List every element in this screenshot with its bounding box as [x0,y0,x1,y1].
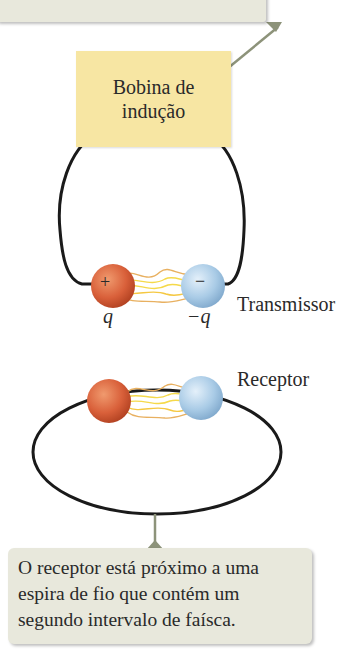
transmitter-label: Transmissor [237,293,335,316]
receiver-label: Receptor [237,368,309,391]
transmitter-circuit-wire [59,135,244,284]
receiver-positive-sphere [87,379,131,423]
top-callout: eletrodos. [0,0,266,22]
induction-coil-label: Bobina de indução [76,75,231,123]
top-callout-text: eletrodos. [10,0,92,5]
induction-coil-box: Bobina de indução [76,51,231,147]
bottom-callout-pointer [146,514,164,550]
bottom-callout-text: O receptor está próximo a uma espira de … [18,555,259,633]
transmitter-positive-sphere [91,264,135,308]
top-callout-pointer [222,22,282,73]
bottom-callout: O receptor está próximo a uma espira de … [8,548,312,644]
negative-sign: − [195,271,205,292]
negative-charge-label: −q [187,305,211,328]
positive-sign: + [100,272,110,293]
receiver-negative-sphere [179,376,223,420]
positive-charge-label: q [103,305,113,328]
